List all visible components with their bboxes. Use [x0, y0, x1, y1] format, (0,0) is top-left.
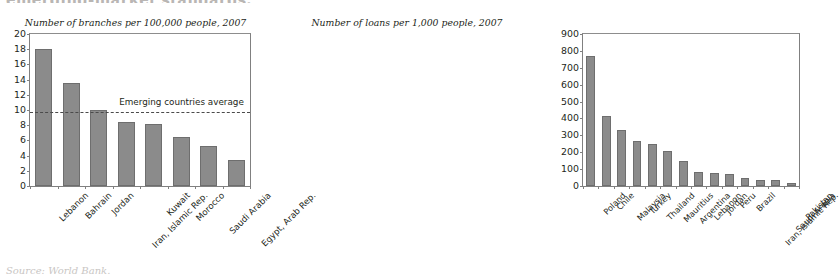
plot-area-loans: 0100200300400500600700800900 [582, 33, 800, 187]
x-axis-tick-mark [753, 186, 754, 189]
bar [617, 130, 626, 186]
bar [663, 151, 672, 186]
y-axis-tick-mark [27, 125, 30, 126]
x-axis-tick-mark [706, 186, 707, 189]
bar [118, 122, 135, 186]
bar [602, 116, 611, 186]
y-axis-tick-mark [580, 34, 583, 35]
bar [173, 137, 190, 186]
x-axis-category-label: Lebanon [58, 191, 90, 223]
bar [90, 110, 107, 186]
x-axis-tick-mark [737, 186, 738, 189]
y-axis-tick-label: 14 [14, 75, 26, 84]
y-axis-tick-mark [27, 34, 30, 35]
x-axis-tick-mark [784, 186, 785, 189]
y-axis-tick-label: 300 [561, 131, 579, 140]
y-axis-tick-mark [27, 49, 30, 50]
y-axis-tick-label: 500 [561, 97, 579, 106]
x-axis-tick-mark [113, 186, 114, 189]
bar-group-branches [30, 34, 250, 186]
y-axis-tick-mark [27, 95, 30, 96]
y-axis-tick-label: 0 [20, 181, 26, 190]
bar-group-loans [583, 34, 799, 186]
emerging-average-label: Emerging countries average [119, 97, 244, 107]
y-axis-tick-label: 6 [20, 136, 26, 145]
y-axis-tick-label: 8 [20, 120, 26, 129]
x-axis-tick-mark [691, 186, 692, 189]
bar [756, 180, 765, 186]
emerging-average-line [30, 112, 250, 113]
y-axis-tick-label: 18 [14, 44, 26, 53]
x-axis-tick-mark [85, 186, 86, 189]
y-axis-tick-label: 2 [20, 166, 26, 175]
y-axis-tick-label: 900 [561, 29, 579, 38]
x-axis-tick-mark [722, 186, 723, 189]
y-axis-tick-mark [27, 140, 30, 141]
x-axis-tick-mark [195, 186, 196, 189]
x-axis-category-label: Saudi Arabia [228, 191, 273, 236]
bar [694, 172, 703, 186]
cropped-source-text: Source: World Bank. [0, 265, 547, 277]
bar [679, 161, 688, 186]
y-axis-tick-mark [580, 102, 583, 103]
y-axis-tick-label: 700 [561, 63, 579, 72]
bar [710, 173, 719, 186]
y-axis-tick-label: 10 [14, 105, 26, 114]
y-axis-tick-label: 20 [14, 29, 26, 38]
chart-title-branches: Number of branches per 100,000 people, 2… [8, 17, 263, 28]
chart-panel-loans: Number of loans per 1,000 people, 2007 0… [271, 0, 541, 267]
bar [633, 141, 642, 186]
y-axis-tick-mark [27, 80, 30, 81]
bar [586, 56, 595, 186]
bar [200, 146, 217, 186]
y-axis-tick-label: 12 [14, 90, 26, 99]
y-axis-tick-label: 400 [561, 114, 579, 123]
y-axis-tick-mark [580, 169, 583, 170]
y-axis-tick-mark [27, 156, 30, 157]
y-axis-tick-label: 100 [561, 164, 579, 173]
bar [787, 183, 796, 186]
y-axis-tick-label: 200 [561, 148, 579, 157]
bar [725, 174, 734, 186]
y-axis-tick-label: 600 [561, 80, 579, 89]
x-axis-tick-mark [223, 186, 224, 189]
x-axis-tick-mark [168, 186, 169, 189]
x-axis-tick-mark [58, 186, 59, 189]
y-axis-tick-label: 16 [14, 60, 26, 69]
bar [771, 180, 780, 186]
bar [648, 144, 657, 186]
bar [145, 124, 162, 186]
x-axis-tick-mark [768, 186, 769, 189]
y-axis-tick-mark [580, 152, 583, 153]
x-axis-tick-mark [140, 186, 141, 189]
y-axis-tick-mark [580, 68, 583, 69]
x-axis-tick-mark [250, 186, 251, 189]
y-axis-tick-mark [580, 85, 583, 86]
bar [63, 83, 80, 186]
y-axis-tick-label: 0 [573, 181, 579, 190]
x-axis-tick-mark [629, 186, 630, 189]
y-axis-tick-mark [27, 110, 30, 111]
y-axis-tick-mark [580, 118, 583, 119]
x-axis-tick-mark [676, 186, 677, 189]
y-axis-tick-mark [580, 135, 583, 136]
x-axis-tick-mark [645, 186, 646, 189]
x-axis-tick-mark [660, 186, 661, 189]
x-axis-tick-mark [614, 186, 615, 189]
y-axis-tick-label: 800 [561, 46, 579, 55]
y-axis-tick-mark [580, 51, 583, 52]
x-axis-category-label: Jordan [110, 191, 135, 216]
chart-title-loans: Number of loans per 1,000 people, 2007 [281, 17, 533, 28]
y-axis-tick-mark [27, 171, 30, 172]
y-axis-tick-mark [27, 64, 30, 65]
x-axis-tick-mark [598, 186, 599, 189]
x-axis-category-label: Brazil [755, 191, 777, 213]
bar [741, 178, 750, 186]
x-axis-tick-mark [583, 186, 584, 189]
bar [35, 49, 52, 186]
x-axis-tick-mark [799, 186, 800, 189]
chart-panel-branches: Number of branches per 100,000 people, 2… [0, 0, 271, 267]
x-axis-tick-mark [30, 186, 31, 189]
y-axis-tick-label: 4 [20, 151, 26, 160]
